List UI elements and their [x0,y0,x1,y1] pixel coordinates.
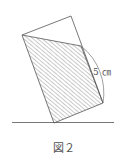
figure-caption: 図２ [0,139,128,155]
hatched-square [22,35,103,123]
length-label: 5 ㎝ [93,65,111,78]
figure-diagram [0,0,128,161]
